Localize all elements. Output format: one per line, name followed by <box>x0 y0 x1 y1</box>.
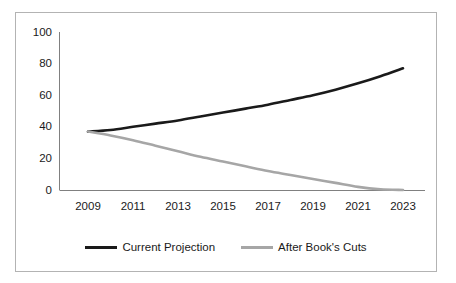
x-tick-label: 2023 <box>383 200 423 212</box>
legend-label: Current Projection <box>122 241 215 253</box>
x-tick-label: 2015 <box>203 200 243 212</box>
x-tick-label: 2021 <box>338 200 378 212</box>
y-tick-label: 20 <box>22 152 52 164</box>
legend-item-current-projection: Current Projection <box>85 241 215 253</box>
y-tick-label: 60 <box>22 89 52 101</box>
series-line-current-projection <box>88 68 403 131</box>
legend-item-after-books-cuts: After Book's Cuts <box>241 241 366 253</box>
legend-label: After Book's Cuts <box>278 241 366 253</box>
y-tick-label: 0 <box>22 184 52 196</box>
chart-series-group <box>88 68 403 190</box>
y-tick-label: 40 <box>22 120 52 132</box>
x-tick-label: 2017 <box>248 200 288 212</box>
series-line-after-books-cuts <box>88 132 403 190</box>
y-tick-label: 100 <box>22 26 52 38</box>
legend-line-swatch-icon <box>241 246 273 249</box>
y-tick-label: 80 <box>22 57 52 69</box>
x-tick-label: 2011 <box>113 200 153 212</box>
x-tick-label: 2013 <box>158 200 198 212</box>
x-tick-label: 2019 <box>293 200 333 212</box>
chart-legend: Current Projection After Book's Cuts <box>15 236 437 258</box>
x-tick-label: 2009 <box>68 200 108 212</box>
legend-line-swatch-icon <box>85 246 117 249</box>
